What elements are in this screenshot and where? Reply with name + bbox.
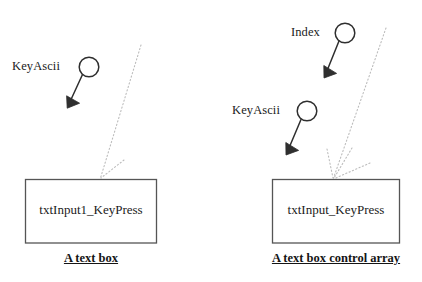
left-keyascii-arrow: [67, 75, 83, 109]
diagram-canvas: KeyAscii txtInput1_KeyPress A text box I…: [0, 0, 422, 282]
right-dotted-ray-long: [334, 28, 387, 178]
left-dotted-ray-long: [101, 45, 142, 178]
left-textbox-label: txtInput1_KeyPress: [25, 202, 157, 218]
right-keyascii-label: KeyAscii: [232, 103, 280, 118]
left-caption: A text box: [25, 251, 157, 266]
right-keyascii-circle-node: [297, 101, 317, 121]
right-keyascii-arrow: [286, 120, 301, 156]
right-dotted-ray-steep: [327, 149, 333, 178]
diagram-vector-layer: [0, 0, 422, 282]
right-index-arrow: [324, 41, 339, 78]
left-dotted-rays: [101, 45, 142, 178]
right-textbox-label: txtInput_KeyPress: [272, 202, 400, 218]
right-index-label: Index: [291, 25, 320, 40]
right-caption: A text box control array: [262, 251, 410, 266]
right-index-circle-node: [335, 23, 355, 43]
left-dotted-ray-short: [101, 160, 124, 178]
left-keyascii-label: KeyAscii: [12, 59, 60, 74]
right-dotted-ray-mid: [334, 148, 352, 178]
right-dotted-ray-flat: [335, 163, 371, 179]
